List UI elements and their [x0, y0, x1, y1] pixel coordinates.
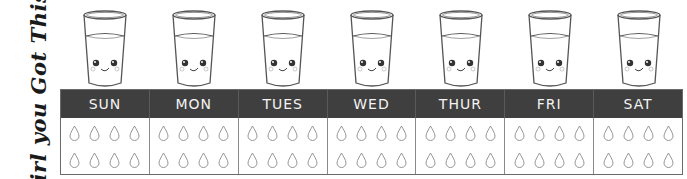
water-tracker-table: SUN MON: [60, 89, 683, 175]
water-drop-icon[interactable]: [109, 152, 120, 168]
water-drop-icon[interactable]: [307, 152, 318, 168]
water-drop-icon[interactable]: [198, 125, 209, 141]
smiling-water-glass-icon: [81, 9, 129, 89]
water-drop-icon[interactable]: [129, 125, 140, 141]
water-drop-icon[interactable]: [129, 152, 140, 168]
water-drop-icon[interactable]: [336, 125, 347, 141]
water-drop-icon[interactable]: [336, 152, 347, 168]
water-drop-icon[interactable]: [425, 152, 436, 168]
water-drop-icon[interactable]: [178, 125, 189, 141]
water-drop-icon[interactable]: [198, 152, 209, 168]
water-drop-icon[interactable]: [109, 125, 120, 141]
glass-slot: [505, 0, 594, 90]
water-drop-icon[interactable]: [514, 125, 525, 141]
smiling-water-glass-icon: [526, 9, 574, 89]
glass-slot: [238, 0, 327, 90]
water-drop-icon[interactable]: [158, 152, 169, 168]
day-column-wed: WED: [327, 90, 416, 174]
water-drop-icon[interactable]: [267, 152, 278, 168]
water-drop-icon[interactable]: [287, 152, 298, 168]
day-header: FRI: [504, 90, 593, 118]
water-drop-icon[interactable]: [643, 152, 654, 168]
glass-slot: [594, 0, 683, 90]
water-drop-icon[interactable]: [356, 125, 367, 141]
glasses-row: [60, 0, 683, 90]
water-drop-icon[interactable]: [603, 152, 614, 168]
day-column-tues: TUES: [238, 90, 327, 174]
water-drop-icon[interactable]: [445, 125, 456, 141]
smiling-water-glass-icon: [348, 9, 396, 89]
smiling-water-glass-icon: [259, 9, 307, 89]
water-drop-icon[interactable]: [663, 152, 674, 168]
motivational-slogan: Girl you Got This!: [24, 8, 52, 173]
glass-slot: [327, 0, 416, 90]
day-column-sun: SUN: [61, 90, 149, 174]
water-drop-icon[interactable]: [574, 152, 585, 168]
water-drop-icon[interactable]: [247, 152, 258, 168]
smiling-water-glass-icon: [170, 9, 218, 89]
glass-slot: [149, 0, 238, 90]
glass-slot: [60, 0, 149, 90]
water-drop-icon[interactable]: [356, 152, 367, 168]
day-column-mon: MON: [149, 90, 238, 174]
water-drop-icon[interactable]: [534, 125, 545, 141]
drop-grid: [594, 118, 682, 174]
water-drop-icon[interactable]: [574, 125, 585, 141]
water-drop-icon[interactable]: [307, 125, 318, 141]
drop-grid: [150, 118, 238, 174]
water-drop-icon[interactable]: [287, 125, 298, 141]
drop-grid: [328, 118, 416, 174]
water-drop-icon[interactable]: [69, 152, 80, 168]
water-drop-icon[interactable]: [623, 152, 634, 168]
day-header: WED: [327, 90, 416, 118]
water-drop-icon[interactable]: [554, 125, 565, 141]
water-drop-icon[interactable]: [158, 125, 169, 141]
water-drop-icon[interactable]: [178, 152, 189, 168]
day-header: SUN: [61, 90, 149, 118]
water-drop-icon[interactable]: [89, 152, 100, 168]
water-drop-icon[interactable]: [69, 125, 80, 141]
smiling-water-glass-icon: [437, 9, 485, 89]
day-header: THUR: [415, 90, 504, 118]
water-drop-icon[interactable]: [534, 152, 545, 168]
day-header: TUES: [238, 90, 327, 118]
day-header: MON: [149, 90, 238, 118]
water-drop-icon[interactable]: [554, 152, 565, 168]
drop-grid: [239, 118, 327, 174]
water-drop-icon[interactable]: [396, 125, 407, 141]
drop-grid: [416, 118, 504, 174]
water-drop-icon[interactable]: [247, 125, 258, 141]
water-drop-icon[interactable]: [485, 152, 496, 168]
water-drop-icon[interactable]: [396, 152, 407, 168]
water-drop-icon[interactable]: [89, 125, 100, 141]
smiling-water-glass-icon: [615, 9, 663, 89]
drop-grid: [505, 118, 593, 174]
day-column-thur: THUR: [415, 90, 504, 174]
glass-slot: [416, 0, 505, 90]
water-drop-icon[interactable]: [603, 125, 614, 141]
water-drop-icon[interactable]: [425, 125, 436, 141]
water-drop-icon[interactable]: [376, 125, 387, 141]
day-header: SAT: [593, 90, 682, 118]
water-drop-icon[interactable]: [267, 125, 278, 141]
slogan-text: Girl you Got This!: [26, 0, 51, 179]
water-drop-icon[interactable]: [376, 152, 387, 168]
water-drop-icon[interactable]: [643, 125, 654, 141]
day-column-sat: SAT: [593, 90, 682, 174]
water-drop-icon[interactable]: [514, 152, 525, 168]
water-drop-icon[interactable]: [218, 152, 229, 168]
day-column-fri: FRI: [504, 90, 593, 174]
water-drop-icon[interactable]: [623, 125, 634, 141]
water-drop-icon[interactable]: [218, 125, 229, 141]
water-drop-icon[interactable]: [485, 125, 496, 141]
water-drop-icon[interactable]: [465, 152, 476, 168]
drop-grid: [61, 118, 149, 174]
water-drop-icon[interactable]: [465, 125, 476, 141]
water-drop-icon[interactable]: [445, 152, 456, 168]
water-drop-icon[interactable]: [663, 125, 674, 141]
